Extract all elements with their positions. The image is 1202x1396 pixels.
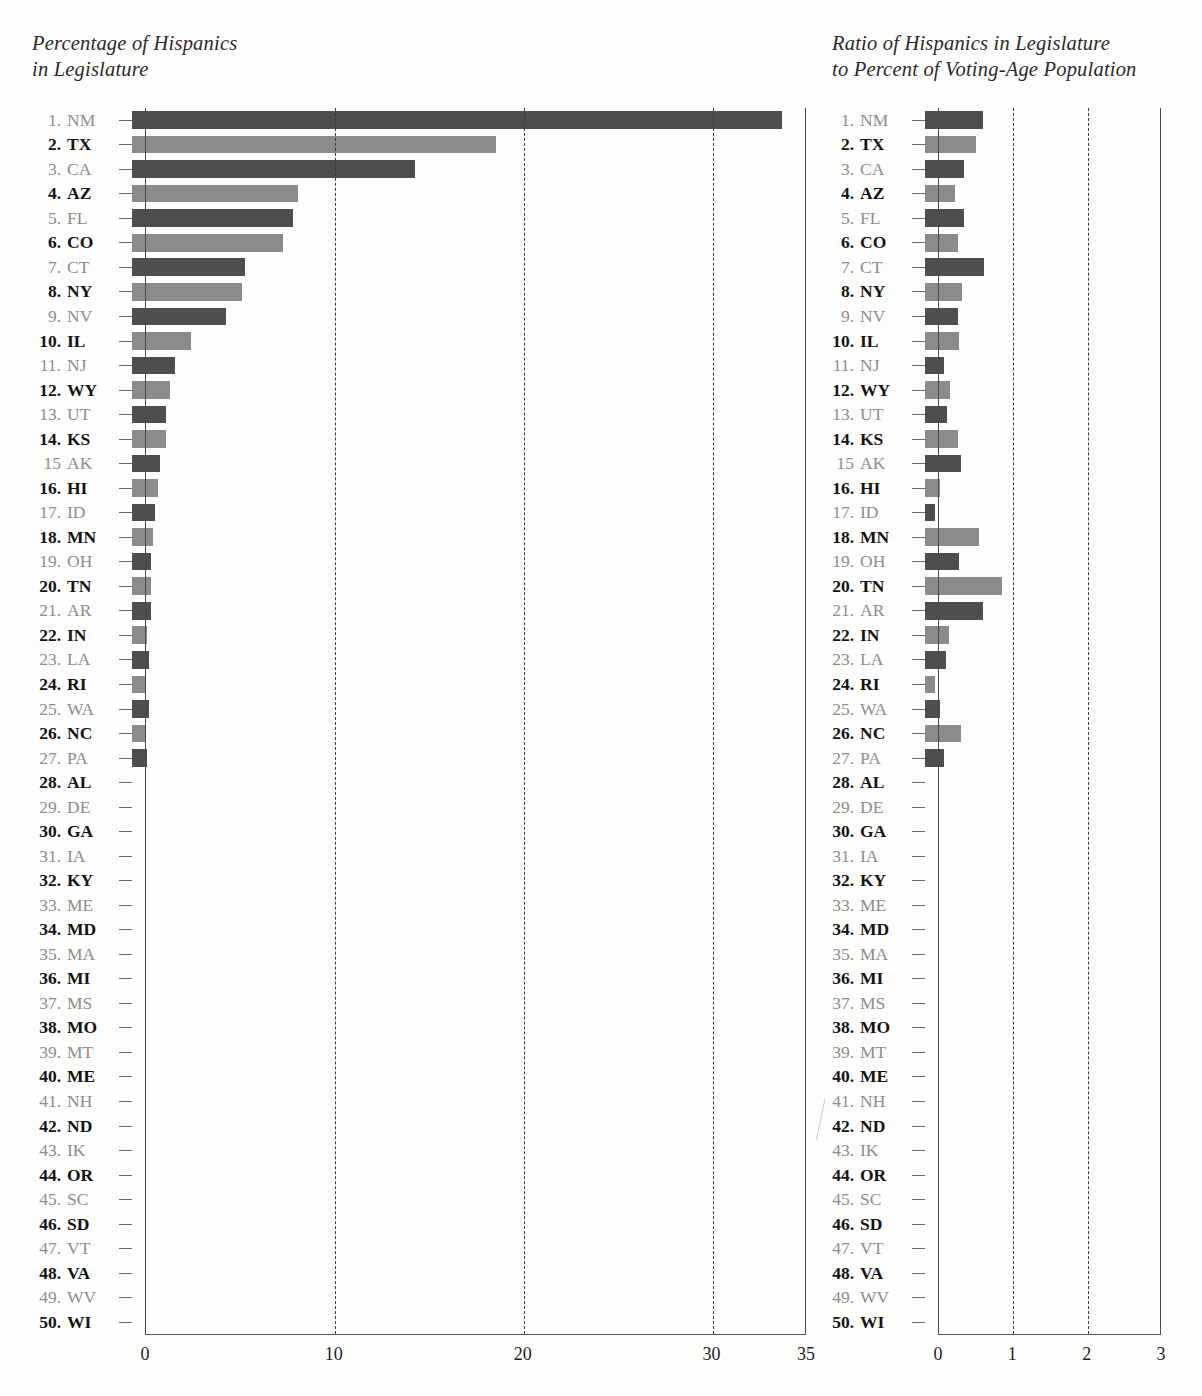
row-rank: 9. — [820, 306, 860, 327]
table-row: 25.WA — [820, 697, 1161, 722]
row-rank: 19. — [820, 551, 860, 572]
row-state-abbr: AZ — [860, 183, 912, 204]
axis-tick-mark — [119, 880, 132, 881]
row-state-abbr: MS — [67, 993, 119, 1014]
axis-tick-mark — [912, 635, 925, 636]
row-rank: 41. — [27, 1091, 67, 1112]
bar-track — [132, 1310, 806, 1335]
row-state-abbr: MA — [860, 944, 912, 965]
table-row: 12.WY — [27, 378, 806, 403]
axis-tick-mark — [119, 586, 132, 587]
axis-tick-mark — [912, 218, 925, 219]
row-state-abbr: CT — [67, 257, 119, 278]
table-row: 46.SD — [27, 1212, 806, 1237]
table-row: 39.MT — [27, 1040, 806, 1065]
bar-track — [925, 918, 1161, 943]
axis-tick-mark — [912, 1322, 925, 1323]
axis-tick-mark — [912, 905, 925, 906]
bar-track — [132, 844, 806, 869]
bar-track — [925, 942, 1161, 967]
axis-tick-mark — [119, 782, 132, 783]
bar-track — [925, 157, 1161, 182]
bar-track — [925, 868, 1161, 893]
row-rank: 45. — [820, 1189, 860, 1210]
row-state-abbr: WA — [67, 699, 119, 720]
row-state-abbr: NJ — [860, 355, 912, 376]
axis-tick-mark — [119, 316, 132, 317]
row-state-abbr: ME — [860, 1066, 912, 1087]
bar-track — [132, 550, 806, 575]
axis-tick-mark — [119, 978, 132, 979]
bar — [132, 749, 147, 767]
bar-track — [132, 721, 806, 746]
row-state-abbr: NH — [860, 1091, 912, 1112]
row-rank: 21. — [27, 600, 67, 621]
row-state-abbr: TX — [67, 134, 119, 155]
axis-tick-mark — [912, 954, 925, 955]
table-row: 33.ME — [820, 893, 1161, 918]
bar-track — [132, 672, 806, 697]
row-rank: 6. — [820, 232, 860, 253]
bar-track — [925, 844, 1161, 869]
bar — [132, 234, 283, 252]
bar-track — [925, 1212, 1161, 1237]
axis-tick-mark — [119, 512, 132, 513]
table-row: 14.KS — [820, 427, 1161, 452]
row-state-abbr: IK — [860, 1140, 912, 1161]
axis-tick-mark — [119, 1101, 132, 1102]
bar-track — [132, 231, 806, 256]
table-row: 22.IN — [820, 623, 1161, 648]
row-rank: 36. — [27, 968, 67, 989]
table-row: 29.DE — [820, 795, 1161, 820]
row-state-abbr: FL — [860, 208, 912, 229]
bar — [132, 626, 147, 644]
row-rank: 24. — [27, 674, 67, 695]
bar-track — [925, 795, 1161, 820]
table-row: 22.IN — [27, 623, 806, 648]
row-rank: 32. — [820, 870, 860, 891]
row-rank: 16. — [820, 478, 860, 499]
bar-track — [925, 1114, 1161, 1139]
bar-track — [925, 599, 1161, 624]
bar — [925, 308, 958, 326]
row-rank: 10. — [820, 331, 860, 352]
row-rank: 26. — [27, 723, 67, 744]
bar-track — [925, 1163, 1161, 1188]
bar-track — [925, 1286, 1161, 1311]
table-row: 25.WA — [27, 697, 806, 722]
row-state-abbr: IK — [67, 1140, 119, 1161]
table-row: 31.IA — [820, 844, 1161, 869]
row-rank: 13. — [820, 404, 860, 425]
bar-track — [132, 697, 806, 722]
axis-tick-mark — [119, 267, 132, 268]
axis-tick-mark — [912, 291, 925, 292]
row-rank: 17. — [820, 502, 860, 523]
table-row: 19.OH — [27, 550, 806, 575]
axis-tick-mark — [912, 659, 925, 660]
row-state-abbr: NC — [860, 723, 912, 744]
axis-tick-mark — [912, 1076, 925, 1077]
bar-track — [132, 378, 806, 403]
row-state-abbr: MO — [67, 1017, 119, 1038]
row-rank: 4. — [27, 183, 67, 204]
bar-track — [925, 1187, 1161, 1212]
row-rank: 21. — [820, 600, 860, 621]
row-state-abbr: MI — [860, 968, 912, 989]
table-row: 10.IL — [820, 329, 1161, 354]
bar-track — [132, 1163, 806, 1188]
table-row: 34.MD — [820, 918, 1161, 943]
row-state-abbr: FL — [67, 208, 119, 229]
axis-tick-mark — [912, 807, 925, 808]
bar-track — [925, 1040, 1161, 1065]
bar — [925, 258, 984, 276]
bar-track — [925, 476, 1161, 501]
bar-track — [925, 133, 1161, 158]
row-state-abbr: IN — [860, 625, 912, 646]
row-state-abbr: IL — [860, 331, 912, 352]
bar — [132, 332, 191, 350]
row-state-abbr: MN — [860, 527, 912, 548]
row-state-abbr: ME — [67, 895, 119, 916]
row-state-abbr: PA — [67, 748, 119, 769]
row-state-abbr: WV — [67, 1287, 119, 1308]
bar-track — [132, 1286, 806, 1311]
